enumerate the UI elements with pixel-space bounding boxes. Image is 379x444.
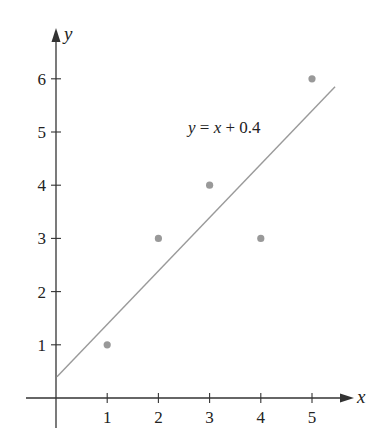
data-point xyxy=(155,235,162,242)
y-tick-label: 1 xyxy=(38,336,47,355)
y-axis-arrow-icon xyxy=(52,28,61,42)
y-tick-label: 3 xyxy=(38,229,47,248)
data-points xyxy=(104,75,316,348)
x-tick-label: 5 xyxy=(308,408,317,427)
equation-label: y = x + 0.4 xyxy=(186,118,261,137)
y-tick-label: 2 xyxy=(38,283,47,302)
data-point xyxy=(104,341,111,348)
y-tick-label: 4 xyxy=(38,176,47,195)
data-point xyxy=(257,235,264,242)
x-axis-label: x xyxy=(356,386,366,407)
data-point xyxy=(308,75,315,82)
y-axis-label: y xyxy=(62,23,73,44)
x-tick-label: 3 xyxy=(205,408,214,427)
x-tick-label: 4 xyxy=(257,408,266,427)
x-axis-arrow-icon xyxy=(340,394,354,403)
x-tick-label: 1 xyxy=(103,408,112,427)
x-tick-label: 2 xyxy=(154,408,163,427)
axes xyxy=(26,28,354,428)
ticks: 12345123456 xyxy=(38,70,317,427)
data-point xyxy=(206,182,213,189)
scatter-plot: 12345123456 y = x + 0.4 x y xyxy=(0,0,379,444)
y-tick-label: 6 xyxy=(38,70,47,89)
y-tick-label: 5 xyxy=(38,123,47,142)
